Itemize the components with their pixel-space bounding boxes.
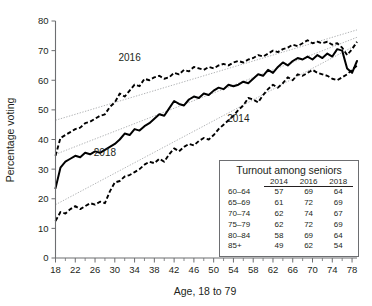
y-tick-label-70: 70 [38, 45, 49, 56]
table-body: 60–6457696465–6961726970–7462746775–7962… [225, 187, 353, 252]
cell-70–74-2016: 74 [294, 209, 324, 220]
cell-60–64-2016: 69 [294, 187, 324, 198]
row-label-80–84: 80–84 [225, 230, 264, 241]
series-line-2016 [56, 40, 358, 156]
y-axis-title: Percentage voting [4, 98, 16, 183]
x-tick-label-78: 78 [347, 264, 358, 275]
y-tick-label-30: 30 [38, 164, 49, 175]
table-row: 65–69617269 [225, 198, 353, 209]
cell-60–64-2014: 57 [264, 187, 294, 198]
2018-trend [56, 37, 358, 154]
x-tick-label-22: 22 [70, 264, 81, 275]
x-tick-label-42: 42 [169, 264, 180, 275]
row-label-75–79: 75–79 [225, 219, 264, 230]
table-header-row: 2014 2016 2018 [225, 177, 353, 187]
row-label-60–64: 60–64 [225, 187, 264, 198]
x-tick-label-62: 62 [268, 264, 279, 275]
figure-container: 0102030405060708018222630343842465054586… [0, 0, 372, 306]
table-row: 60–64576964 [225, 187, 353, 198]
cell-75–79-2018: 69 [323, 219, 353, 230]
cell-70–74-2014: 62 [264, 209, 294, 220]
series-label-2014: 2014 [227, 113, 250, 124]
y-tick-label-40: 40 [38, 134, 49, 145]
y-tick-label-60: 60 [38, 75, 49, 86]
cell-75–79-2016: 72 [294, 219, 324, 230]
x-tick-label-66: 66 [287, 264, 298, 275]
cell-80–84-2018: 64 [323, 230, 353, 241]
row-label-85+: 85+ [225, 241, 264, 252]
y-tick-label-10: 10 [38, 223, 49, 234]
column-header-2018: 2018 [323, 177, 353, 187]
y-tick-label-0: 0 [43, 252, 48, 263]
cell-85+-2018: 54 [323, 241, 353, 252]
x-tick-label-70: 70 [307, 264, 318, 275]
y-tick-label-50: 50 [38, 104, 49, 115]
series-label-2018: 2018 [94, 147, 117, 158]
cell-80–84-2014: 58 [264, 230, 294, 241]
cell-65–69-2018: 69 [323, 198, 353, 209]
x-tick-label-30: 30 [110, 264, 121, 275]
cell-65–69-2016: 72 [294, 198, 324, 209]
inset-table-title: Turnout among seniors [225, 164, 353, 176]
series-label-2016: 2016 [119, 52, 142, 63]
cell-75–79-2014: 62 [264, 219, 294, 230]
row-label-65–69: 65–69 [225, 198, 264, 209]
row-label-70–74: 70–74 [225, 209, 264, 220]
x-tick-label-54: 54 [228, 264, 239, 275]
voting-by-age-chart: 0102030405060708018222630343842465054586… [0, 0, 372, 306]
x-tick-label-50: 50 [208, 264, 219, 275]
table-row: 85+496254 [225, 241, 353, 252]
x-tick-label-26: 26 [90, 264, 101, 275]
y-tick-label-80: 80 [38, 15, 49, 26]
table-row: 70–74627467 [225, 209, 353, 220]
cell-65–69-2014: 61 [264, 198, 294, 209]
turnout-among-seniors-table: Turnout among seniors 2014 2016 2018 60–… [219, 160, 359, 257]
x-tick-label-46: 46 [189, 264, 200, 275]
table-row: 80–84586964 [225, 230, 353, 241]
column-header-2016: 2016 [294, 177, 324, 187]
cell-70–74-2018: 67 [323, 209, 353, 220]
x-tick-label-58: 58 [248, 264, 259, 275]
seniors-turnout-table: 2014 2016 2018 60–6457696465–6961726970–… [225, 177, 353, 252]
x-axis-title: Age, 18 to 79 [174, 285, 237, 297]
x-tick-label-38: 38 [149, 264, 160, 275]
table-row: 75–79627269 [225, 219, 353, 230]
cell-80–84-2016: 69 [294, 230, 324, 241]
y-tick-label-20: 20 [38, 193, 49, 204]
table-corner-header [225, 177, 264, 187]
cell-60–64-2018: 64 [323, 187, 353, 198]
cell-85+-2016: 62 [294, 241, 324, 252]
column-header-2014: 2014 [264, 177, 294, 187]
x-tick-label-34: 34 [129, 264, 140, 275]
x-tick-label-18: 18 [50, 264, 61, 275]
cell-85+-2014: 49 [264, 241, 294, 252]
x-tick-label-74: 74 [327, 264, 338, 275]
